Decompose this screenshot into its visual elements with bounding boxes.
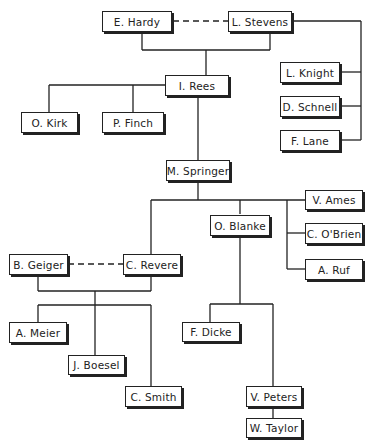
node-label: V. Peters: [250, 391, 297, 403]
node-blanke: O. Blanke: [210, 215, 270, 236]
node-label: M. Springer: [167, 165, 230, 177]
node-finch: P. Finch: [102, 112, 164, 133]
node-label: F. Lane: [291, 135, 329, 147]
node-label: O. Blanke: [214, 220, 266, 232]
node-label: C. O'Brien: [307, 228, 362, 240]
node-label: F. Dicke: [190, 326, 232, 338]
node-lane: F. Lane: [280, 130, 340, 151]
node-peters: V. Peters: [246, 386, 302, 407]
node-label: L. Stevens: [232, 16, 289, 28]
node-label: L. Knight: [286, 67, 334, 79]
node-springer: M. Springer: [166, 160, 230, 181]
node-rees: I. Rees: [165, 75, 229, 96]
node-boesel: J. Boesel: [68, 355, 125, 375]
node-label: J. Boesel: [73, 359, 120, 371]
node-ruf: A. Ruf: [305, 259, 363, 280]
node-meier: A. Meier: [9, 322, 67, 343]
node-dicke: F. Dicke: [182, 322, 240, 342]
node-knight: L. Knight: [280, 62, 340, 83]
node-label: O. Kirk: [31, 117, 67, 129]
node-ames: V. Ames: [305, 190, 363, 210]
org-chart: E. Hardy L. Stevens L. Knight D. Schnell…: [0, 0, 375, 446]
node-label: B. Geiger: [13, 259, 64, 271]
node-revere: C. Revere: [123, 254, 181, 275]
node-taylor: W. Taylor: [246, 418, 302, 438]
node-label: P. Finch: [113, 117, 153, 129]
node-obrien: C. O'Brien: [305, 223, 363, 244]
node-schnell: D. Schnell: [280, 96, 340, 117]
node-label: A. Ruf: [318, 264, 350, 276]
node-label: V. Ames: [312, 194, 355, 206]
node-hardy: E. Hardy: [102, 11, 172, 32]
node-kirk: O. Kirk: [21, 112, 78, 133]
node-label: I. Rees: [179, 80, 215, 92]
node-smith: C. Smith: [125, 386, 182, 407]
node-geiger: B. Geiger: [9, 254, 68, 275]
node-stevens: L. Stevens: [228, 11, 292, 32]
node-label: W. Taylor: [250, 422, 299, 434]
node-label: A. Meier: [16, 327, 61, 339]
node-label: E. Hardy: [114, 16, 160, 28]
node-label: C. Smith: [130, 391, 176, 403]
node-label: D. Schnell: [283, 101, 338, 113]
node-label: C. Revere: [126, 259, 178, 271]
